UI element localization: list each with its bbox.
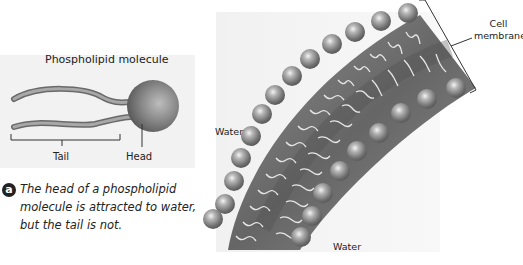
head-label: Head (126, 151, 152, 162)
cell-membrane-label-line1: Cell (474, 18, 523, 30)
molecule-title: Phospholipid molecule (45, 53, 169, 66)
head-ball (127, 80, 179, 132)
caption-line: but the tail is not. (20, 216, 196, 234)
caption-badge: a (2, 183, 16, 197)
water-label-bottom: Water (333, 241, 361, 252)
water-label-left: Water (215, 126, 243, 137)
cell-membrane-label: Cell membrane (474, 18, 523, 42)
caption-line: The head of a phospholipid (20, 180, 196, 198)
caption-text: The head of a phospholipid molecule is a… (20, 180, 196, 234)
cell-membrane-label-line2: membrane (474, 30, 523, 42)
tail-label: Tail (53, 151, 69, 162)
caption-line: molecule is attracted to water, (20, 198, 196, 216)
